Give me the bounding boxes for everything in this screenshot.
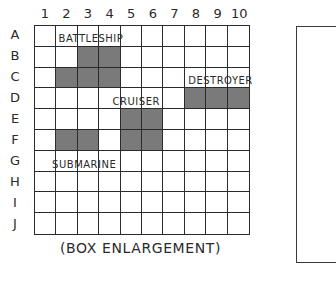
row-label: C — [4, 69, 26, 84]
grid-cell-i10[interactable] — [228, 192, 249, 213]
grid-cell-i5[interactable] — [121, 192, 142, 213]
grid-cell-e1[interactable] — [35, 109, 56, 130]
column-label: 10 — [228, 6, 250, 21]
grid-cell-h10[interactable] — [228, 172, 249, 193]
grid-cell-e10[interactable] — [228, 109, 249, 130]
grid-cell-h8[interactable] — [185, 172, 206, 193]
grid-cell-j9[interactable] — [206, 213, 227, 234]
grid-cell-g7[interactable] — [163, 151, 184, 172]
grid-cell-f9[interactable] — [206, 130, 227, 151]
grid-cell-h9[interactable] — [206, 172, 227, 193]
grid-cell-h3[interactable] — [78, 172, 99, 193]
grid-cell-j4[interactable] — [99, 213, 120, 234]
grid-cell-b4[interactable] — [99, 47, 120, 68]
grid-cell-b10[interactable] — [228, 47, 249, 68]
grid-cell-f2[interactable] — [56, 130, 77, 151]
grid-cell-j7[interactable] — [163, 213, 184, 234]
grid-cell-j2[interactable] — [56, 213, 77, 234]
grid-cell-j6[interactable] — [142, 213, 163, 234]
grid-cell-a10[interactable] — [228, 26, 249, 47]
grid-cell-c2[interactable] — [56, 68, 77, 89]
row-label: E — [4, 111, 26, 126]
grid-cell-a7[interactable] — [163, 26, 184, 47]
grid-cell-h1[interactable] — [35, 172, 56, 193]
grid-cell-f3[interactable] — [78, 130, 99, 151]
row-label: J — [4, 216, 26, 231]
grid-cell-d1[interactable] — [35, 88, 56, 109]
grid-cell-d7[interactable] — [163, 88, 184, 109]
grid-cell-f7[interactable] — [163, 130, 184, 151]
grid-cell-a5[interactable] — [121, 26, 142, 47]
grid-cell-b9[interactable] — [206, 47, 227, 68]
grid-cell-e8[interactable] — [185, 109, 206, 130]
row-label: F — [4, 132, 26, 147]
grid-cell-b3[interactable] — [78, 47, 99, 68]
grid-cell-i4[interactable] — [99, 192, 120, 213]
grid-cell-i8[interactable] — [185, 192, 206, 213]
grid-cell-g5[interactable] — [121, 151, 142, 172]
grid-cell-d2[interactable] — [56, 88, 77, 109]
grid-cell-e9[interactable] — [206, 109, 227, 130]
grid-cell-a9[interactable] — [206, 26, 227, 47]
grid-cell-j3[interactable] — [78, 213, 99, 234]
grid-cell-h2[interactable] — [56, 172, 77, 193]
column-label: 6 — [142, 6, 164, 21]
grid-cell-d9[interactable] — [206, 88, 227, 109]
grid-cell-c5[interactable] — [121, 68, 142, 89]
grid-cell-j10[interactable] — [228, 213, 249, 234]
grid-cell-e5[interactable] — [121, 109, 142, 130]
grid-cell-i2[interactable] — [56, 192, 77, 213]
grid-cell-c6[interactable] — [142, 68, 163, 89]
grid-cell-i9[interactable] — [206, 192, 227, 213]
grid-cell-e7[interactable] — [163, 109, 184, 130]
grid-cell-j1[interactable] — [35, 213, 56, 234]
grid-cell-f10[interactable] — [228, 130, 249, 151]
enlargement-box — [296, 26, 336, 263]
grid-cell-i3[interactable] — [78, 192, 99, 213]
grid-cell-j8[interactable] — [185, 213, 206, 234]
grid-cell-h6[interactable] — [142, 172, 163, 193]
grid-cell-e2[interactable] — [56, 109, 77, 130]
ship-label-battleship: BATTLESHIP — [59, 33, 124, 44]
grid-cell-e3[interactable] — [78, 109, 99, 130]
grid-cell-b5[interactable] — [121, 47, 142, 68]
grid-cell-d10[interactable] — [228, 88, 249, 109]
grid-cell-b7[interactable] — [163, 47, 184, 68]
row-label: B — [4, 48, 26, 63]
grid-cell-d8[interactable] — [185, 88, 206, 109]
grid-cell-f8[interactable] — [185, 130, 206, 151]
caption: (BOX ENLARGEMENT) — [60, 240, 221, 256]
grid-cell-c1[interactable] — [35, 68, 56, 89]
column-label: 9 — [207, 6, 229, 21]
grid-cell-f4[interactable] — [99, 130, 120, 151]
grid-cell-g10[interactable] — [228, 151, 249, 172]
grid-cell-e4[interactable] — [99, 109, 120, 130]
grid-cell-h4[interactable] — [99, 172, 120, 193]
grid-cell-a8[interactable] — [185, 26, 206, 47]
grid-cell-f1[interactable] — [35, 130, 56, 151]
grid-cell-e6[interactable] — [142, 109, 163, 130]
column-label: 5 — [120, 6, 142, 21]
grid-cell-c4[interactable] — [99, 68, 120, 89]
grid-cell-i6[interactable] — [142, 192, 163, 213]
grid-cell-h7[interactable] — [163, 172, 184, 193]
grid-cell-b1[interactable] — [35, 47, 56, 68]
grid-cell-g6[interactable] — [142, 151, 163, 172]
ship-label-destroyer: DESTROYER — [188, 75, 253, 86]
grid-cell-j5[interactable] — [121, 213, 142, 234]
grid-cell-f6[interactable] — [142, 130, 163, 151]
grid-cell-f5[interactable] — [121, 130, 142, 151]
grid-cell-i7[interactable] — [163, 192, 184, 213]
grid-cell-b8[interactable] — [185, 47, 206, 68]
grid-cell-a1[interactable] — [35, 26, 56, 47]
grid-cell-b2[interactable] — [56, 47, 77, 68]
grid-cell-c7[interactable] — [163, 68, 184, 89]
grid-cell-d3[interactable] — [78, 88, 99, 109]
grid-cell-g9[interactable] — [206, 151, 227, 172]
grid-cell-a6[interactable] — [142, 26, 163, 47]
grid-cell-g8[interactable] — [185, 151, 206, 172]
grid-cell-b6[interactable] — [142, 47, 163, 68]
grid-cell-i1[interactable] — [35, 192, 56, 213]
grid-cell-h5[interactable] — [121, 172, 142, 193]
grid-cell-c3[interactable] — [78, 68, 99, 89]
